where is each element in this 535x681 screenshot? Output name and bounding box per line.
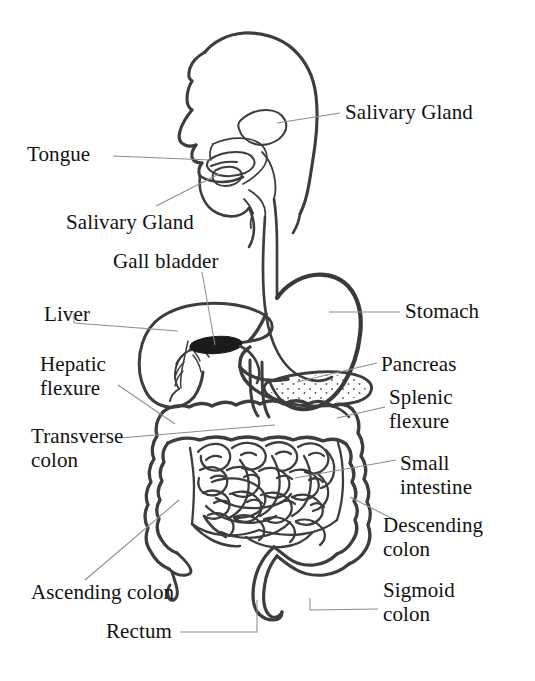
label-salivary-gland-lower: Salivary Gland [66,211,194,234]
digestive-system-diagram: Salivary Gland Tongue Salivary Gland Gal… [0,0,535,681]
small-intestine [190,442,343,547]
leader-salivary-gland-upper [277,113,340,123]
gall-bladder [189,335,242,356]
label-hepatic-flexure: Hepatic flexure [40,352,106,400]
label-stomach: Stomach [405,300,479,323]
leader-tongue [113,156,210,160]
label-salivary-gland-upper: Salivary Gland [345,101,473,124]
esophagus [263,199,277,314]
label-pancreas: Pancreas [381,353,456,376]
label-ascending-colon: Ascending colon [31,581,174,604]
salivary-gland-parotid [238,110,286,145]
label-gall-bladder: Gall bladder [113,250,219,273]
label-small-intestine: Small intestine [400,451,472,499]
label-descending-colon: Descending colon [383,513,483,561]
label-splenic-flexure: Splenic flexure [389,385,453,433]
sigmoid-colon [274,547,349,575]
label-transverse-colon: Transverse colon [31,424,123,472]
leader-rectum [180,600,257,632]
leader-salivary-gland-lower [156,174,219,206]
label-sigmoid-colon: Sigmoid colon [383,578,455,626]
label-rectum: Rectum [106,620,172,643]
transverse-colon [163,401,352,444]
label-tongue: Tongue [27,143,90,166]
jaw-outline [200,176,249,216]
pharynx [244,152,276,228]
label-liver: Liver [44,303,90,326]
leader-gall-bladder [202,272,215,345]
leader-sigmoid-colon [310,598,378,610]
